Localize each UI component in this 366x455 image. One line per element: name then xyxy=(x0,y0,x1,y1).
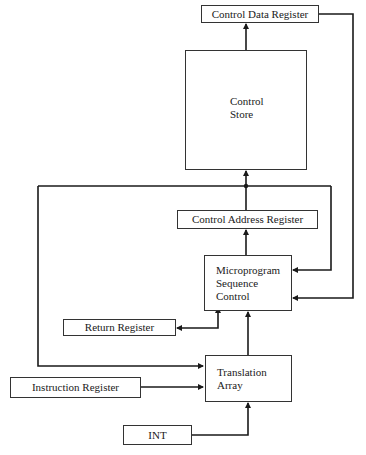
int-label: INT xyxy=(148,429,166,442)
msc-line-2: Sequence xyxy=(216,277,291,290)
msc-line-1: Microprogram xyxy=(216,264,291,277)
translation-array-line-2: Array xyxy=(217,379,291,392)
control-store-line-1: Control xyxy=(230,95,264,108)
instruction-register-box: Instruction Register xyxy=(10,377,141,398)
junction-dot xyxy=(244,184,248,188)
translation-array-line-1: Translation xyxy=(217,366,291,379)
return-register-label: Return Register xyxy=(85,321,154,334)
control-store-line-2: Store xyxy=(230,108,264,121)
edge-int-to-translation xyxy=(191,403,248,435)
int-box: INT xyxy=(123,425,192,445)
msc-line-3: Control xyxy=(216,290,291,303)
control-data-register-label: Control Data Register xyxy=(212,8,309,21)
microprogram-sequence-control-box: Microprogram Sequence Control xyxy=(204,255,292,311)
control-address-register-label: Control Address Register xyxy=(192,213,303,226)
control-store-box: Control Store xyxy=(185,50,307,170)
instruction-register-label: Instruction Register xyxy=(32,381,119,394)
control-address-register-box: Control Address Register xyxy=(177,210,318,229)
translation-array-box: Translation Array xyxy=(205,355,292,402)
return-register-box: Return Register xyxy=(63,319,176,336)
control-data-register-box: Control Data Register xyxy=(201,5,319,23)
edge-msc-return xyxy=(177,312,218,328)
